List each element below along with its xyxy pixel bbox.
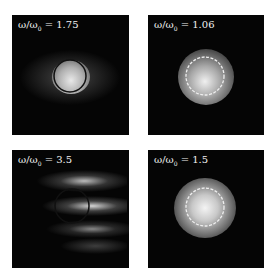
omega-ratio-label: ω/ω0 = 1.75 (18, 19, 79, 35)
panel-top-right: ω/ω0 = 1.06 (148, 15, 264, 135)
omega-ratio-label: ω/ω0 = 1.5 (154, 154, 208, 170)
panel-top-left: ω/ω0 = 1.75 (12, 15, 129, 135)
omega-ratio-label: ω/ω0 = 1.06 (154, 19, 215, 35)
panel-bottom-right: ω/ω0 = 1.5 (148, 150, 264, 268)
panel-bottom-left: ω/ω0 = 3.5 (12, 150, 129, 268)
omega-ratio-label: ω/ω0 = 3.5 (18, 154, 72, 170)
